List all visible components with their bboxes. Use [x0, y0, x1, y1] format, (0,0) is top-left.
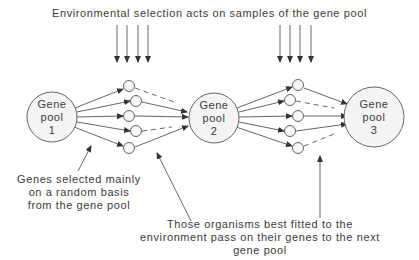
annotation-line: Those organisms best fitted to the: [140, 218, 380, 231]
pool-label-line: pool: [349, 111, 399, 124]
arrows-pool1-to-samples: [74, 89, 130, 146]
selection-arrows-right: [280, 25, 311, 62]
annotation-line: gene pool: [140, 244, 380, 257]
annotation-line: from the gene pool: [14, 199, 144, 212]
annotation-random-selection: Genes selected mainly on a random basis …: [14, 173, 144, 212]
annotation-line: on a random basis: [14, 186, 144, 199]
gene-pool-2-label: Gene pool 2: [189, 99, 239, 138]
gene-pool-3-label: Gene pool 3: [349, 98, 399, 137]
pool-label-line: Gene: [27, 98, 77, 111]
pool-label-line: Gene: [349, 98, 399, 111]
pool-label-line: 1: [27, 124, 77, 137]
pool-label-line: 2: [189, 125, 239, 138]
pool-label-line: Gene: [189, 99, 239, 112]
selection-arrows-left: [117, 25, 148, 62]
diagram-title: Environmental selection acts on samples …: [0, 7, 419, 20]
arrows-pool2-to-samples: [236, 87, 292, 146]
gene-pool-1-label: Gene pool 1: [27, 98, 77, 137]
sample-circles-a: [124, 81, 142, 154]
annotation-line: environment pass on their genes to the n…: [140, 231, 380, 244]
annotation-best-fitted: Those organisms best fitted to the envir…: [140, 218, 380, 257]
pool-label-line: pool: [189, 112, 239, 125]
pool-label-line: 3: [349, 124, 399, 137]
links-samplesA-to-pool2: [135, 88, 188, 147]
pool-label-line: pool: [27, 111, 77, 124]
annotation-line: Genes selected mainly: [14, 173, 144, 186]
